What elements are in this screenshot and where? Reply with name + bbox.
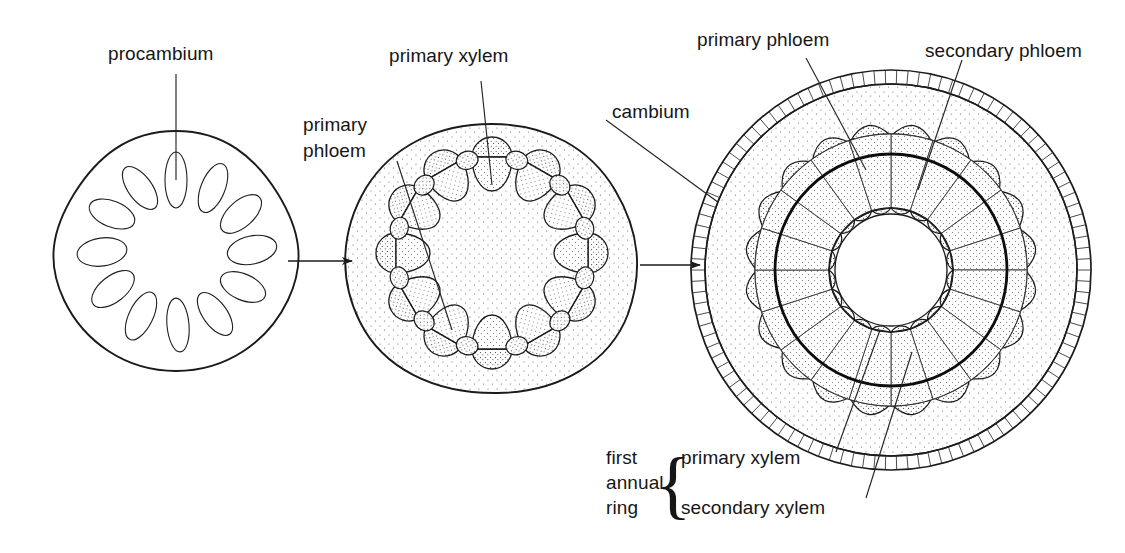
label-procambium: procambium: [108, 43, 214, 64]
label-primary-phloem-mid-line2: phloem: [303, 140, 366, 161]
stage1-procambium-strands: [75, 152, 279, 353]
stage-3-secondary-growth: [691, 58, 1091, 498]
figure-root: procambium primary xylem primary phloem …: [0, 0, 1125, 553]
stage-2-primary-growth: [345, 81, 745, 393]
label-secondary-xylem-right: secondary xylem: [681, 497, 825, 518]
label-primary-xylem-right: primary xylem: [681, 447, 801, 468]
label-secondary-phloem-right: secondary phloem: [925, 40, 1082, 61]
label-primary-phloem-mid-line1: primary: [303, 114, 367, 135]
stage-1-procambium: [53, 74, 298, 371]
stage3-pith: [835, 214, 947, 326]
label-primary-phloem-right: primary phloem: [697, 29, 829, 50]
secondary-growth-diagram: procambium primary xylem primary phloem …: [0, 0, 1125, 553]
label-cambium: cambium: [612, 101, 690, 122]
label-primary-xylem-mid: primary xylem: [389, 45, 509, 66]
label-first-annual-ring-line1: first: [606, 447, 638, 468]
label-first-annual-ring-line3: ring: [606, 497, 638, 518]
